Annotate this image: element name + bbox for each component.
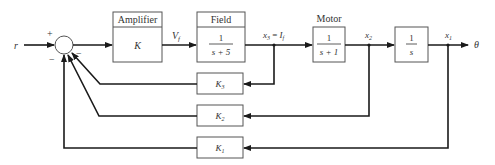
motor-den: s + 1 xyxy=(320,47,339,57)
amplifier-block: Amplifier K xyxy=(113,12,162,62)
motor-block: 1 s + 1 xyxy=(313,27,345,62)
motor-title: Motor xyxy=(317,13,343,24)
k2-block: K2 xyxy=(197,105,243,126)
output-label: θ xyxy=(474,39,479,50)
motor-num: 1 xyxy=(327,33,332,43)
sign-plus: + xyxy=(47,28,53,39)
sign-minus-bottom-left: − xyxy=(49,54,55,65)
field-den: s + 5 xyxy=(212,47,231,57)
integrator-block: 1 s xyxy=(395,27,428,62)
feedback-k2-in xyxy=(244,45,369,116)
k3-block: K3 xyxy=(197,73,243,94)
summing-junction xyxy=(55,36,73,54)
feedback-k1-out xyxy=(64,55,197,148)
amplifier-gain: K xyxy=(133,40,142,51)
integrator-den: s xyxy=(410,47,414,57)
signal-x3: x3 = If xyxy=(262,30,286,41)
amplifier-title: Amplifier xyxy=(118,14,158,25)
field-block: Field 1 s + 5 xyxy=(197,12,245,62)
input-label: r xyxy=(14,40,18,51)
field-title: Field xyxy=(211,14,232,25)
feedback-k3-in xyxy=(244,45,274,84)
signal-x2: x2 xyxy=(364,30,372,41)
feedback-k2-out xyxy=(68,55,197,116)
k1-block: K1 xyxy=(197,137,243,158)
integrator-num: 1 xyxy=(409,33,414,43)
signal-vf: Vf xyxy=(172,30,181,43)
signal-x1: x1 xyxy=(444,30,452,41)
field-num: 1 xyxy=(219,33,224,43)
